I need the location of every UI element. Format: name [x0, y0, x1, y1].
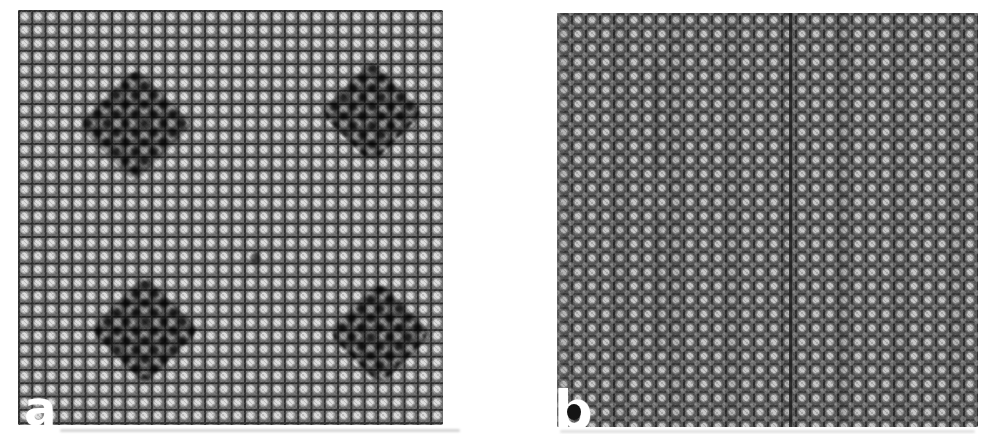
scan-smudge — [60, 429, 460, 432]
faint-vertical-streak — [839, 13, 844, 427]
micrograph-panel-a: a — [18, 10, 443, 425]
two-panel-micrograph-figure: a b — [0, 0, 985, 434]
small-dark-spot — [250, 253, 261, 264]
lattice-texture-b — [557, 13, 978, 427]
label-b-counter-dot — [567, 404, 581, 420]
faint-vertical-streak — [654, 61, 661, 171]
micrograph-panel-b: b — [557, 13, 978, 427]
panel-label-a: a — [24, 390, 56, 425]
vertical-scratch-line — [789, 13, 792, 427]
faint-vertical-streak — [656, 213, 662, 353]
scan-smudge — [560, 430, 975, 433]
